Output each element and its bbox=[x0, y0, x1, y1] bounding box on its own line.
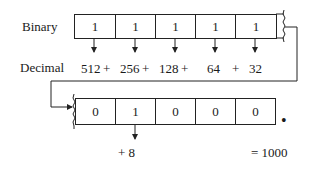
connector-lines bbox=[0, 0, 313, 171]
torn-edge-icon bbox=[283, 10, 285, 42]
wrap-arrow-icon bbox=[51, 27, 297, 107]
torn-edge-icon bbox=[73, 94, 75, 129]
